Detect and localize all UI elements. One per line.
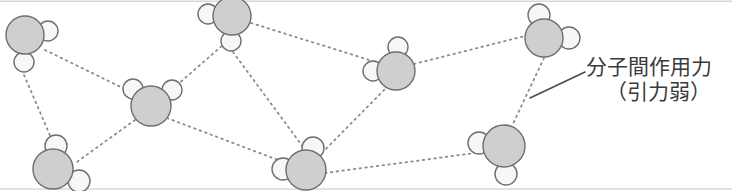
intermolecular-force-diagram: 分子間作用力 （引力弱） xyxy=(0,0,732,191)
hydrogen-atom-2 xyxy=(14,52,34,72)
oxygen-atom xyxy=(213,0,251,35)
oxygen-atom xyxy=(483,125,525,167)
annotation-label-line1: 分子間作用力 xyxy=(586,55,732,80)
oxygen-atom xyxy=(6,16,44,54)
oxygen-atom xyxy=(33,149,73,189)
oxygen-atom xyxy=(525,19,563,57)
oxygen-atom xyxy=(377,52,415,90)
oxygen-atom xyxy=(286,150,326,190)
annotation-label-line2: （引力弱） xyxy=(586,80,732,105)
oxygen-atom xyxy=(131,86,171,126)
annotation-label: 分子間作用力 （引力弱） xyxy=(586,55,732,105)
